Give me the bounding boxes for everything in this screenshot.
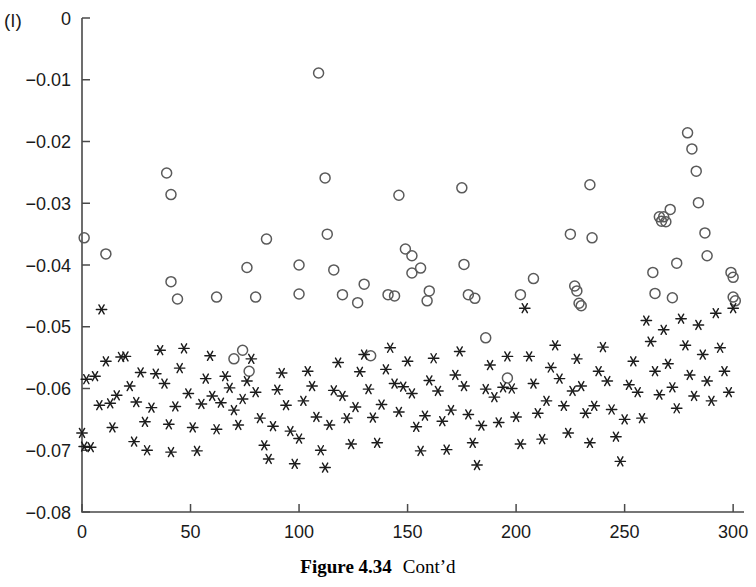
data-point-circle [294, 289, 304, 299]
data-point-asterisk [170, 402, 180, 411]
data-point-asterisk [411, 422, 421, 431]
data-point-asterisk [337, 391, 347, 400]
figure-container: (l) 0−0.01−0.02−0.03−0.04−0.05−0.06−0.07… [0, 0, 756, 587]
data-point-circle [416, 263, 426, 273]
data-point-asterisk [719, 367, 729, 376]
axis-spines [82, 18, 744, 512]
data-point-asterisk [281, 401, 291, 410]
data-point-asterisk [472, 461, 482, 470]
data-point-asterisk [224, 383, 234, 392]
series-open-circles [79, 68, 740, 383]
x-axis-tick-label: 200 [501, 522, 531, 542]
data-point-asterisk [459, 382, 469, 391]
data-point-asterisk [255, 414, 265, 423]
data-point-asterisk [229, 406, 239, 415]
data-point-asterisk [585, 438, 595, 447]
data-point-circle [481, 333, 491, 343]
data-point-asterisk [441, 445, 451, 454]
data-point-asterisk [311, 412, 321, 421]
data-point-asterisk [205, 351, 215, 360]
data-point-asterisk [303, 367, 313, 376]
data-point-circle [394, 190, 404, 200]
data-point-asterisk [140, 417, 150, 426]
data-point-asterisk [611, 432, 621, 441]
data-point-asterisk [685, 370, 695, 379]
data-point-asterisk [201, 374, 211, 383]
data-point-asterisk [420, 411, 430, 420]
data-point-circle [700, 228, 710, 238]
data-point-asterisk [637, 414, 647, 423]
data-point-asterisk [211, 425, 221, 434]
data-point-asterisk [580, 409, 590, 418]
data-point-asterisk [537, 435, 547, 444]
y-axis-tick-label: −0.07 [25, 441, 71, 461]
data-point-asterisk [550, 341, 560, 350]
x-axis-tick-label: 150 [393, 522, 423, 542]
data-point-circle [515, 290, 525, 300]
data-point-asterisk [125, 382, 135, 391]
data-point-asterisk [454, 347, 464, 356]
data-point-circle [665, 204, 675, 214]
caption-figure-number: Figure 4.34 [300, 556, 391, 577]
data-point-asterisk [481, 385, 491, 394]
data-point-asterisk [433, 386, 443, 395]
data-point-asterisk [259, 441, 269, 450]
data-point-circle [79, 233, 89, 243]
data-point-circle [229, 354, 239, 364]
x-axis-tick-label: 300 [718, 522, 748, 542]
data-point-asterisk [402, 357, 412, 366]
data-point-circle [322, 229, 332, 239]
caption-note: Cont’d [392, 556, 456, 577]
data-point-asterisk [663, 359, 673, 368]
data-point-circle [173, 294, 183, 304]
data-point-asterisk [242, 377, 252, 386]
data-point-asterisk [524, 352, 534, 361]
data-point-asterisk [667, 383, 677, 392]
data-point-circle [687, 144, 697, 154]
y-axis-tick-label: −0.01 [25, 70, 71, 90]
data-point-asterisk [146, 403, 156, 412]
data-point-circle [650, 288, 660, 298]
data-point-circle [261, 234, 271, 244]
data-point-asterisk [207, 391, 217, 400]
data-point-circle [242, 262, 252, 272]
data-point-asterisk [467, 438, 477, 447]
y-axis-tick-label: −0.02 [25, 132, 71, 152]
data-point-asterisk [511, 412, 521, 421]
data-point-asterisk [333, 358, 343, 367]
data-point-asterisk [446, 406, 456, 415]
data-point-asterisk [385, 343, 395, 352]
data-point-asterisk [329, 386, 339, 395]
data-point-asterisk [135, 368, 145, 377]
data-point-circle [390, 291, 400, 301]
data-point-asterisk [142, 446, 152, 455]
data-point-asterisk [101, 357, 111, 366]
data-point-asterisk [174, 364, 184, 373]
data-point-circle [702, 251, 712, 261]
x-axis-tick-label: 250 [610, 522, 640, 542]
data-point-circle [422, 296, 432, 306]
data-point-asterisk [298, 396, 308, 405]
data-point-asterisk [179, 344, 189, 353]
data-point-asterisk [376, 400, 386, 409]
data-point-asterisk [107, 423, 117, 432]
data-point-asterisk [437, 417, 447, 426]
data-point-asterisk [316, 446, 326, 455]
data-point-asterisk [676, 314, 686, 323]
data-point-asterisk [645, 337, 655, 346]
data-point-circle [574, 298, 584, 308]
data-point-circle [565, 229, 575, 239]
data-point-asterisk [263, 454, 273, 463]
data-point-circle [162, 168, 172, 178]
data-point-circle [502, 373, 512, 383]
data-point-asterisk [355, 367, 365, 376]
data-point-circle [667, 293, 677, 303]
data-point-asterisk [294, 434, 304, 443]
data-point-asterisk [424, 376, 434, 385]
data-point-asterisk [350, 403, 360, 412]
data-point-asterisk [672, 404, 682, 413]
data-point-asterisk [576, 382, 586, 391]
scatter-plot: 0−0.01−0.02−0.03−0.04−0.05−0.06−0.07−0.0… [0, 0, 756, 556]
data-point-asterisk [528, 379, 538, 388]
data-point-asterisk [94, 401, 104, 410]
